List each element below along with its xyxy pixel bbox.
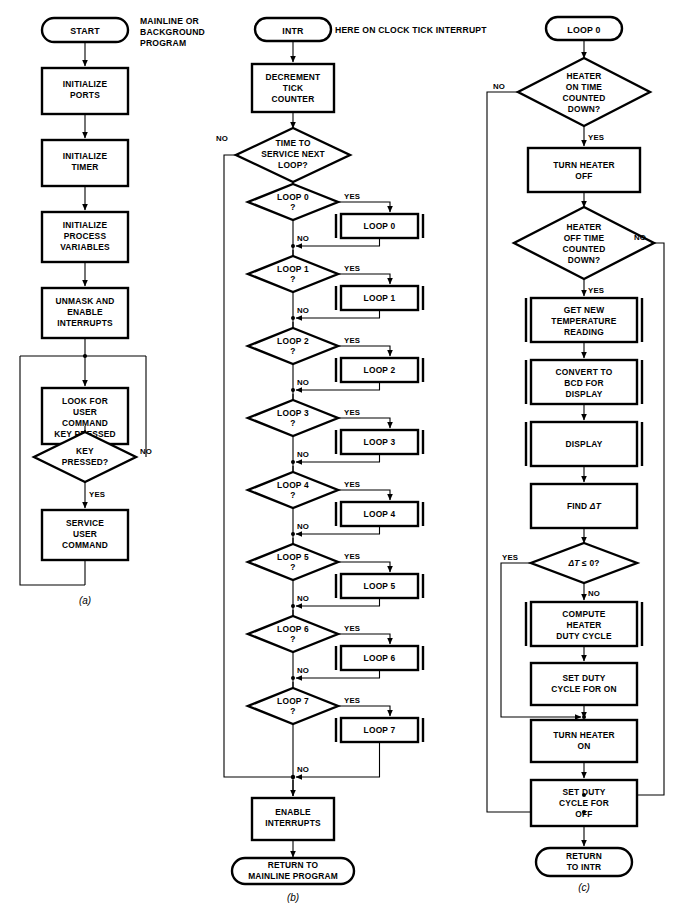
subroutine-loop-4-label: LOOP 4 [364, 509, 396, 519]
decision-time-line3: LOOP? [278, 160, 308, 170]
panel-b: HERE ON CLOCK TICK INTERRUPT INTR DECREM… [216, 18, 487, 903]
decision-loop-0-line1: LOOP 0 [277, 192, 309, 202]
decision-heater-on-line2: ON TIME [566, 82, 603, 92]
subroutine-get-temp-line1: GET NEW [564, 305, 604, 315]
terminal-return-mainline-line2: MAINLINE PROGRAM [248, 871, 338, 881]
process-enable-interrupts-line1: ENABLE [275, 807, 311, 817]
decision-loop-2-yes-label: YES [344, 336, 360, 345]
subroutine-loop-5-label: LOOP 5 [364, 581, 396, 591]
process-set-duty-off-line2: CYCLE FOR [559, 798, 609, 808]
process-initialize-process-variables-line2: PROCESS [64, 231, 107, 241]
decision-heater-off-line2: OFF TIME [564, 233, 605, 243]
decision-heater-off-no-label: NO [634, 233, 646, 242]
subroutine-compute-line3: DUTY CYCLE [556, 631, 612, 641]
process-decrement-tick-counter-line2: TICK [283, 83, 303, 93]
decision-delta-t-label: ΔT ≤ 0? [567, 558, 599, 568]
process-initialize-process-variables-line3: VARIABLES [60, 242, 110, 252]
process-initialize-ports-line1: INITIALIZE [63, 79, 108, 89]
decision-loop-5-line1: LOOP 5 [277, 552, 309, 562]
decision-heater-on-no-label: NO [493, 82, 505, 91]
decision-heater-off-yes-label: YES [588, 286, 604, 295]
decision-key-pressed-line1: KEY [76, 446, 94, 456]
process-decrement-tick-counter-line1: DECREMENT [266, 72, 322, 82]
decision-loop-1-line1: LOOP 1 [277, 264, 309, 274]
process-look-for-user-command-line2: USER [73, 407, 97, 417]
process-find-delta-t-label: FIND ΔT [567, 501, 602, 511]
decision-loop-3-line1: LOOP 3 [277, 408, 309, 418]
subroutine-display-label: DISPLAY [566, 439, 603, 449]
loop-row-6: LOOP 6 ? YES NO LOOP 6 [248, 616, 423, 694]
terminal-return-intr-line2: TO INTR [567, 862, 602, 872]
decision-loop-6-yes-label: YES [344, 624, 360, 633]
process-initialize-process-variables-line1: INITIALIZE [63, 220, 108, 230]
process-turn-heater-off [528, 148, 640, 192]
panel-c: LOOP 0 HEATER ON TIME COUNTED DOWN? NO Y… [487, 17, 664, 893]
subroutine-convert-line3: DISPLAY [566, 389, 603, 399]
subroutine-loop-0-label: LOOP 0 [364, 221, 396, 231]
decision-loop-2-line2: ? [290, 346, 295, 356]
decision-heater-on-yes-label: YES [588, 133, 604, 142]
flowchart-canvas: MAINLINE OR BACKGROUND PROGRAM START INI… [0, 0, 676, 909]
process-service-user-command-line3: COMMAND [62, 540, 108, 550]
decision-loop-6-line2: ? [290, 634, 295, 644]
decision-loop-4-line1: LOOP 4 [277, 480, 309, 490]
process-set-duty-on-line2: CYCLE FOR ON [551, 684, 617, 694]
subroutine-loop-1-label: LOOP 1 [364, 293, 396, 303]
loop-row-2: LOOP 2 ? YES NO LOOP 2 [248, 328, 423, 406]
decision-loop-1-yes-label: YES [344, 264, 360, 273]
panel-a-note-line2: BACKGROUND [140, 27, 205, 37]
decision-loop-5-yes-label: YES [344, 552, 360, 561]
decision-loop-3-yes-label: YES [344, 408, 360, 417]
subroutine-loop-3-label: LOOP 3 [364, 437, 396, 447]
terminal-start-label: START [70, 26, 100, 36]
subroutine-loop-6-label: LOOP 6 [364, 653, 396, 663]
decision-loop-6-line1: LOOP 6 [277, 624, 309, 634]
process-unmask-enable-interrupts-line2: ENABLE [67, 307, 103, 317]
decision-heater-on-time [518, 58, 650, 126]
subroutine-loop-7-label: LOOP 7 [364, 725, 396, 735]
decision-delta-t-no-label: NO [588, 589, 600, 598]
decision-loop-1-line2: ? [290, 274, 295, 284]
panel-a-caption: (a) [79, 595, 91, 606]
loop-row-1: LOOP 1 ? YES NO LOOP 1 [248, 256, 423, 334]
decision-loop-0-line2: ? [290, 202, 295, 212]
decision-key-pressed-no-label: NO [140, 447, 152, 456]
process-look-for-user-command-line1: LOOK FOR [62, 396, 108, 406]
panel-c-caption: (c) [578, 882, 590, 893]
decision-heater-off-line3: COUNTED [563, 244, 606, 254]
process-turn-heater-off-line1: TURN HEATER [553, 160, 615, 170]
decision-loop-6-no-label: NO [297, 666, 309, 675]
process-service-user-command-line1: SERVICE [66, 518, 104, 528]
decision-heater-on-line4: DOWN? [568, 104, 601, 114]
decision-loop-0-no-label: NO [297, 234, 309, 243]
subroutine-get-temp-line3: READING [564, 327, 604, 337]
decision-loop-3-no-label: NO [297, 450, 309, 459]
process-set-duty-on-line1: SET DUTY [562, 673, 605, 683]
loop-row-5: LOOP 5 ? YES NO LOOP 5 [248, 544, 423, 622]
process-service-user-command-line2: USER [73, 529, 97, 539]
decision-loop-4-no-label: NO [297, 522, 309, 531]
subroutine-compute-line1: COMPUTE [562, 609, 605, 619]
panel-a-note-line3: PROGRAM [140, 38, 186, 48]
process-initialize-timer-line1: INITIALIZE [63, 151, 108, 161]
decision-loop-7-yes-label: YES [344, 696, 360, 705]
process-turn-heater-on-line2: ON [578, 741, 591, 751]
process-initialize-ports-line2: PORTS [70, 90, 100, 100]
decision-loop-2-no-label: NO [297, 378, 309, 387]
decision-heater-off-line1: HEATER [566, 222, 601, 232]
subroutine-compute-line2: HEATER [566, 620, 601, 630]
decision-loop-5-no-label: NO [297, 594, 309, 603]
decision-key-pressed-line2: PRESSED? [62, 457, 109, 467]
decision-loop-7-line2: ? [290, 706, 295, 716]
decision-heater-on-line3: COUNTED [563, 93, 606, 103]
panel-b-caption: (b) [287, 892, 299, 903]
decision-loop-3-line2: ? [290, 418, 295, 428]
subroutine-convert-line2: BCD FOR [564, 378, 604, 388]
terminal-intr-label: INTR [282, 26, 304, 36]
decision-loop-2-line1: LOOP 2 [277, 336, 309, 346]
decision-loop-4-line2: ? [290, 490, 295, 500]
decision-delta-t-yes-label: YES [502, 553, 518, 562]
subroutine-convert-line1: CONVERT TO [556, 367, 613, 377]
subroutine-get-temp-line2: TEMPERATURE [551, 316, 617, 326]
flowchart-sheet: MAINLINE OR BACKGROUND PROGRAM START INI… [0, 0, 676, 909]
